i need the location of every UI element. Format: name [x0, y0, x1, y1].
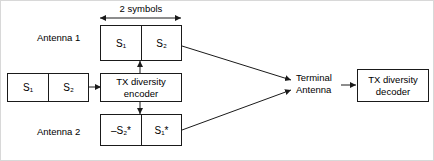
- antenna-2-stream-box: –S₂* S₁*: [100, 114, 182, 146]
- antenna-2-symbol-1: –S₂*: [101, 115, 141, 145]
- decoder-label-line-1: TX diversity: [368, 74, 418, 85]
- tx-diversity-encoder-text: TX diversity encoder: [116, 76, 166, 100]
- antenna-2-symbol-2: S₁*: [141, 115, 181, 145]
- terminal-antenna-line-2: Antenna: [296, 84, 331, 95]
- tx-diversity-decoder-block: TX diversity decoder: [357, 69, 429, 102]
- tx-diversity-encoder-block: TX diversity encoder: [100, 73, 182, 102]
- terminal-antenna-line-1: Terminal: [296, 72, 332, 83]
- tx-diversity-decoder-text: TX diversity decoder: [368, 74, 418, 98]
- encoder-label-line-1: TX diversity: [116, 76, 166, 87]
- input-symbol-1: S₁: [8, 74, 48, 101]
- antenna-1-stream-box: S₁ S₂: [100, 25, 182, 61]
- input-symbol-2: S₂: [48, 74, 88, 101]
- input-stream-box: S₁ S₂: [7, 73, 89, 102]
- decoder-label-line-2: decoder: [376, 86, 410, 97]
- path-antenna-2-to-terminal: [182, 90, 291, 130]
- dimension-label-2-symbols: 2 symbols: [100, 3, 182, 14]
- path-antenna-1-to-terminal: [182, 46, 291, 80]
- antenna-1-symbol-2: S₂: [141, 26, 181, 60]
- antenna-1-label: Antenna 1: [37, 32, 80, 44]
- antenna-2-label: Antenna 2: [37, 126, 80, 138]
- terminal-antenna-label: Terminal Antenna: [296, 72, 332, 96]
- encoder-label-line-2: encoder: [124, 88, 158, 99]
- antenna-1-symbol-1: S₁: [101, 26, 141, 60]
- transmit-diversity-diagram: 2 symbols Antenna 1 S₁ S₂ S₁ S₂ TX diver…: [0, 0, 434, 161]
